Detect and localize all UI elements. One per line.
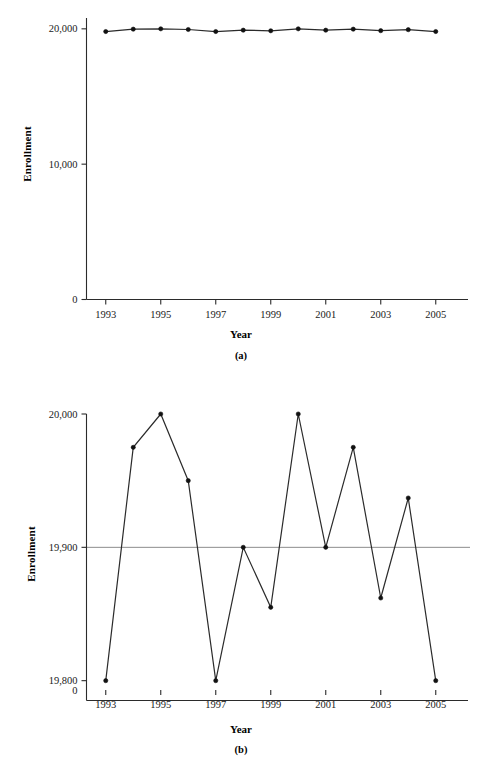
data-point-1993 (104, 679, 108, 683)
y-origin-label: 0 (72, 685, 77, 696)
x-tick-label-2001: 2001 (315, 699, 336, 710)
data-point-1994 (131, 27, 135, 31)
data-point-2001 (324, 545, 328, 549)
data-point-1996 (186, 479, 190, 483)
data-point-1999 (269, 29, 273, 33)
data-point-2003 (379, 596, 383, 600)
plot-area-a: 010,00020,000 19931995199719992001200320… (0, 0, 482, 340)
x-axis-ticks-b (106, 690, 436, 695)
y-axis-ticks-b (82, 414, 87, 681)
x-tick-label-2003: 2003 (370, 309, 391, 320)
data-point-2005 (434, 679, 438, 683)
y-tick-label-20000: 20,000 (49, 409, 78, 420)
x-tick-label-2001: 2001 (315, 309, 336, 320)
data-point-1998 (241, 545, 245, 549)
data-point-1997 (214, 679, 218, 683)
data-point-2000 (296, 412, 300, 416)
y-axis-title-a: Enrollment (21, 114, 33, 194)
data-point-1996 (186, 27, 190, 31)
x-axis-ticks-a (106, 300, 436, 305)
chart-panel-b: Enrollment 19,80019,90020,0000 199319951… (0, 380, 482, 767)
x-tick-label-1997: 1997 (205, 309, 226, 320)
data-point-2003 (379, 29, 383, 33)
data-point-2004 (406, 28, 410, 32)
plot-area-b: 19,80019,90020,0000 19931995199719992001… (0, 380, 482, 710)
y-tick-label-19900: 19,900 (49, 542, 78, 553)
x-tick-label-1993: 1993 (95, 309, 116, 320)
y-axis-ticks-a (82, 29, 87, 300)
data-point-1995 (159, 412, 163, 416)
y-tick-label-10000: 10,000 (49, 159, 78, 170)
panel-caption-a: (a) (0, 350, 482, 361)
data-point-1993 (104, 29, 108, 33)
x-tick-label-1999: 1999 (260, 309, 281, 320)
data-point-1999 (269, 605, 273, 609)
panel-caption-b: (b) (0, 744, 482, 755)
data-point-2000 (296, 27, 300, 31)
data-point-2002 (351, 27, 355, 31)
data-point-2001 (324, 28, 328, 32)
data-point-2005 (434, 29, 438, 33)
x-tick-label-1995: 1995 (150, 309, 171, 320)
chart-panel-a: Enrollment 010,00020,000 199319951997199… (0, 0, 482, 380)
y-tick-label-20000: 20,000 (49, 23, 78, 34)
x-tick-label-2003: 2003 (370, 699, 391, 710)
y-axis-tick-labels-a: 010,00020,000 (49, 23, 78, 305)
x-tick-label-1997: 1997 (205, 699, 226, 710)
data-point-2002 (351, 445, 355, 449)
data-point-2004 (406, 496, 410, 500)
data-point-1995 (159, 27, 163, 31)
x-tick-label-1993: 1993 (95, 699, 116, 710)
x-axis-title-b: Year (0, 723, 482, 735)
data-point-1998 (241, 28, 245, 32)
y-axis-title-b: Enrollment (25, 514, 37, 594)
y-tick-label-0: 0 (72, 294, 77, 305)
data-point-1997 (214, 29, 218, 33)
y-axis-tick-labels-b: 19,80019,90020,0000 (49, 409, 78, 696)
x-tick-label-1995: 1995 (150, 699, 171, 710)
x-tick-label-2005: 2005 (425, 309, 446, 320)
x-tick-label-1999: 1999 (260, 699, 281, 710)
data-point-1994 (131, 445, 135, 449)
x-tick-label-2005: 2005 (425, 699, 446, 710)
x-axis-tick-labels-a: 1993199519971999200120032005 (95, 309, 446, 320)
x-axis-title-a: Year (0, 328, 482, 340)
